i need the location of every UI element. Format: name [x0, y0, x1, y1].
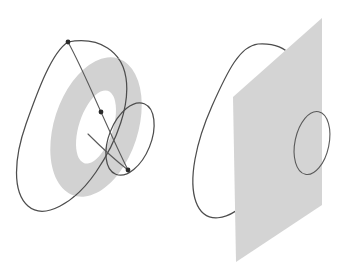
plane-parallelogram [233, 18, 322, 262]
annulus-ring-fill [34, 46, 158, 209]
figure-canvas [0, 0, 339, 271]
marker-middle-dot [99, 110, 104, 115]
plane-panel [193, 18, 335, 262]
marker-bottom-dot [126, 168, 131, 173]
annulus [34, 46, 158, 209]
annulus-panel [17, 40, 164, 211]
topology-figure-svg [0, 0, 339, 271]
marker-top-dot [66, 40, 71, 45]
